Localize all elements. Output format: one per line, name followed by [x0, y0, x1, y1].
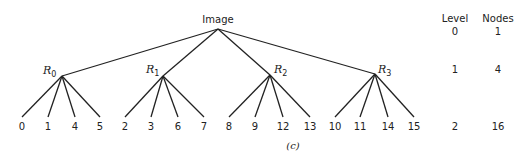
root-label-image: Image	[202, 14, 233, 26]
level-value-2: 2	[452, 121, 458, 133]
level-header: Level	[442, 13, 468, 25]
leaf-label-4: 4	[72, 121, 78, 133]
leaf-label-8: 8	[226, 121, 232, 133]
level-value-1: 1	[452, 64, 458, 76]
edge-r3-to-10	[335, 74, 375, 117]
leaf-label-2: 2	[122, 121, 128, 133]
edge-r2-to-9	[255, 75, 270, 117]
edge-r1-to-7	[163, 76, 204, 117]
nodes-header: Nodes	[482, 13, 513, 25]
region-label-r2: R2	[274, 64, 287, 80]
leaf-label-11: 11	[354, 121, 367, 133]
region-label-r3: R3	[378, 64, 391, 80]
leaf-label-3: 3	[148, 121, 154, 133]
leaf-label-6: 6	[175, 121, 181, 133]
leaf-label-15: 15	[408, 121, 421, 133]
level-value-0: 0	[452, 26, 458, 38]
leaf-label-7: 7	[201, 121, 207, 133]
leaf-label-12: 12	[277, 121, 290, 133]
leaf-label-10: 10	[329, 121, 342, 133]
edge-r0-to-0	[22, 76, 62, 117]
leaf-label-1: 1	[45, 121, 51, 133]
leaf-label-13: 13	[304, 121, 317, 133]
edge-root-to-r1	[163, 29, 218, 76]
edge-r0-to-5	[62, 76, 100, 117]
region-label-r0: R0	[43, 65, 56, 81]
leaf-label-5: 5	[97, 121, 103, 133]
edge-r0-to-1	[48, 76, 62, 117]
edge-r1-to-6	[163, 76, 178, 117]
edge-root-to-r0	[62, 29, 218, 76]
region-label-r1: R1	[146, 64, 159, 80]
leaf-label-14: 14	[382, 121, 395, 133]
nodes-value-0: 1	[495, 26, 501, 38]
figure-caption: (c)	[286, 140, 299, 151]
edge-root-to-r3	[218, 29, 375, 74]
nodes-value-1: 4	[495, 64, 501, 76]
nodes-value-2: 16	[492, 121, 505, 133]
leaf-label-0: 0	[19, 121, 25, 133]
edge-r3-to-11	[360, 74, 375, 117]
edge-r2-to-8	[229, 75, 270, 117]
leaf-label-9: 9	[252, 121, 258, 133]
